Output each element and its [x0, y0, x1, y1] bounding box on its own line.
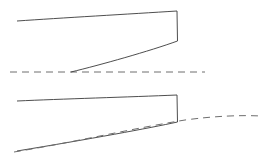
figure-container [0, 0, 269, 164]
upper-section-right-edge [177, 11, 178, 41]
line-diagram [0, 0, 269, 164]
figure-background [0, 0, 269, 164]
lower-section-right-edge [177, 95, 178, 122]
